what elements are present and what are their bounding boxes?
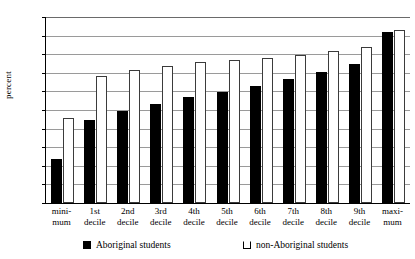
bar-group	[178, 17, 211, 203]
bar-aboriginal	[283, 79, 294, 203]
chart-legend: Aboriginal students non-Aboriginal stude…	[45, 240, 409, 254]
x-axis-label: 6thdecile	[244, 206, 277, 227]
bar-group	[245, 17, 278, 203]
legend-label-aboriginal: Aboriginal students	[96, 240, 171, 250]
bar-aboriginal	[349, 64, 360, 204]
bar-aboriginal	[84, 120, 95, 203]
bar-group	[46, 17, 79, 203]
x-axis-label: 7thdecile	[277, 206, 310, 227]
bar-aboriginal	[382, 32, 393, 203]
bar-non-aboriginal	[63, 118, 74, 203]
y-axis-tick-mark	[42, 203, 46, 204]
legend-item-non-aboriginal: non-Aboriginal students	[243, 240, 348, 250]
bar-non-aboriginal	[262, 58, 273, 203]
bar-aboriginal	[316, 72, 327, 203]
bar-group	[311, 17, 344, 203]
y-axis-title: percent	[3, 83, 13, 99]
bar-non-aboriginal	[229, 60, 240, 203]
bar-non-aboriginal	[328, 51, 339, 203]
bar-non-aboriginal	[195, 62, 206, 203]
bar-group	[211, 17, 244, 203]
x-axis-label: 8thdecile	[310, 206, 343, 227]
x-axis-label: 2nddecile	[111, 206, 144, 227]
bar-group	[344, 17, 377, 203]
bar-group	[278, 17, 311, 203]
legend-label-non-aboriginal: non-Aboriginal students	[256, 240, 348, 250]
legend-swatch-non-aboriginal-icon	[243, 241, 251, 249]
x-axis-labels: mini-mum1stdecile2nddecile3rddecile4thde…	[45, 206, 409, 227]
bar-aboriginal	[217, 92, 228, 203]
bar-non-aboriginal	[96, 76, 107, 203]
x-axis-label: 1stdecile	[78, 206, 111, 227]
legend-item-aboriginal: Aboriginal students	[83, 240, 171, 250]
x-axis-label: mini-mum	[45, 206, 78, 227]
x-axis-label: 9thdecile	[343, 206, 376, 227]
bar-non-aboriginal	[361, 47, 372, 203]
legend-swatch-aboriginal-icon	[83, 241, 91, 249]
x-axis-label: 3rddecile	[144, 206, 177, 227]
bar-non-aboriginal	[129, 70, 140, 203]
bar-non-aboriginal	[162, 66, 173, 203]
bar-aboriginal	[183, 97, 194, 203]
x-axis-label: 4thdecile	[177, 206, 210, 227]
bar-aboriginal	[150, 104, 161, 204]
bar-group	[112, 17, 145, 203]
bar-aboriginal	[250, 86, 261, 203]
bar-chart: percent 0102030405060708090100 mini-mum1…	[0, 0, 415, 259]
bar-aboriginal	[117, 111, 128, 203]
plot-area: 0102030405060708090100	[45, 17, 410, 204]
bar-aboriginal	[51, 159, 62, 203]
bar-groups	[46, 17, 410, 203]
bar-non-aboriginal	[394, 30, 405, 203]
bar-group	[377, 17, 410, 203]
bar-group	[79, 17, 112, 203]
x-axis-label: 5thdecile	[210, 206, 243, 227]
bar-non-aboriginal	[295, 55, 306, 203]
x-axis-label: maxi-mum	[376, 206, 409, 227]
bar-group	[145, 17, 178, 203]
